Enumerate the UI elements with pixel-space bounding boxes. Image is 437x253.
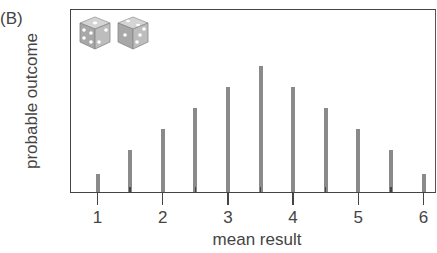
minor-tick (195, 187, 196, 192)
x-tick-label: 5 (354, 208, 363, 228)
x-tick (292, 192, 294, 205)
bar (161, 129, 165, 192)
x-tick-label: 2 (158, 208, 167, 228)
x-tick (97, 192, 99, 205)
x-tick (162, 192, 164, 205)
bar (291, 87, 295, 192)
bar (259, 66, 263, 192)
x-tick (358, 192, 360, 205)
x-tick-label: 3 (223, 208, 232, 228)
bar (226, 87, 230, 192)
bar (193, 108, 197, 192)
die-icon (116, 15, 150, 51)
x-tick-label: 4 (288, 208, 297, 228)
die-icon (78, 15, 112, 51)
minor-tick (325, 187, 326, 192)
bar (96, 174, 100, 192)
bar (356, 129, 360, 192)
bar (324, 108, 328, 192)
x-tick-label: 1 (93, 208, 102, 228)
bar (128, 150, 132, 192)
bar (389, 150, 393, 192)
x-tick (227, 192, 229, 205)
panel-label: (B) (0, 9, 23, 29)
x-tick (423, 192, 425, 205)
bar (422, 174, 426, 192)
x-axis-label: mean result (213, 230, 302, 250)
minor-tick (260, 187, 261, 192)
minor-tick (390, 187, 391, 192)
y-axis-label: probable outcome (22, 33, 42, 169)
minor-tick (129, 187, 130, 192)
x-tick-label: 6 (419, 208, 428, 228)
